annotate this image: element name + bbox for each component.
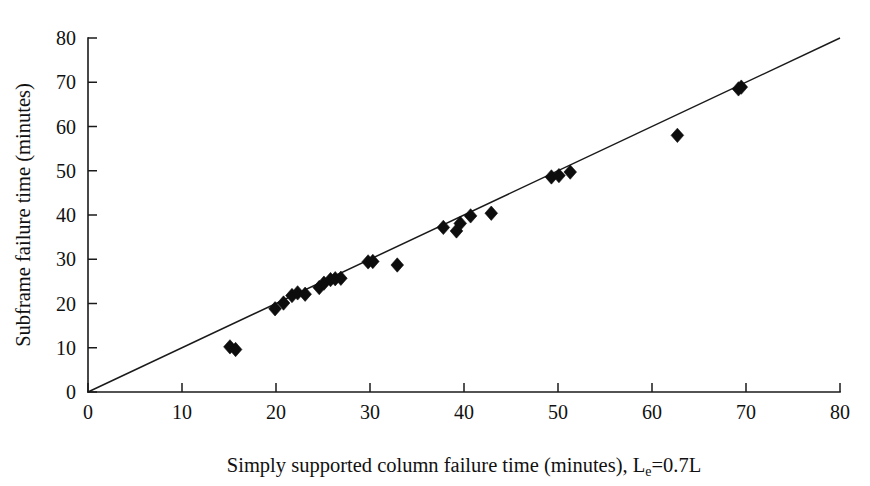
x-tick-label-80: 80 [830,401,850,423]
x-tick-label-20: 20 [266,401,286,423]
equality-line [88,38,840,392]
y-tick-label-60: 60 [56,116,76,138]
x-axis-title: Simply supported column failure time (mi… [227,454,701,479]
x-tick-label-50: 50 [548,401,568,423]
x-tick-label-30: 30 [360,401,380,423]
x-tick-label-40: 40 [454,401,474,423]
data-point-0-23 [671,128,684,142]
plot-canvas: 01020304050607080 01020304050607080 Simp… [0,0,870,486]
x-tick-label-60: 60 [642,401,662,423]
y-tick-label-0: 0 [66,381,76,403]
reference-line-group [88,38,840,392]
data-point-0-14 [391,258,404,272]
y-tick-label-40: 40 [56,204,76,226]
y-tick-label-50: 50 [56,160,76,182]
y-tick-label-70: 70 [56,71,76,93]
x-axis-ticks: 01020304050607080 [83,383,850,423]
y-tick-label-20: 20 [56,293,76,315]
data-point-0-18 [464,209,477,223]
data-point-0-19 [485,206,498,220]
y-axis-title: Subframe failure time (minutes) [12,83,35,347]
axis-titles: Simply supported column failure time (mi… [12,83,701,479]
y-tick-label-30: 30 [56,248,76,270]
y-tick-label-10: 10 [56,337,76,359]
y-tick-label-80: 80 [56,27,76,49]
x-tick-label-10: 10 [172,401,192,423]
data-markers-group [224,80,748,357]
scatter-plot-figure: 01020304050607080 01020304050607080 Simp… [0,0,870,486]
x-tick-label-70: 70 [736,401,756,423]
x-tick-label-0: 0 [83,401,93,423]
y-axis-ticks: 01020304050607080 [56,27,97,403]
